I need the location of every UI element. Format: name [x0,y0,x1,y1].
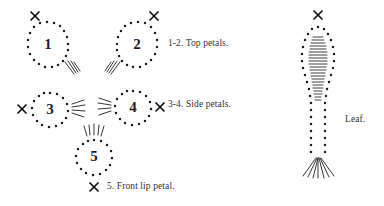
petal-2-group: 2 [105,12,158,74]
petal-4-number: 4 [129,99,137,115]
petal-5-cross-icon [90,183,98,191]
leaf-outline-dots [301,26,336,154]
petal-2-hatch-icon [105,61,120,74]
caption-top-petals: 1-2. Top petals. [168,38,228,48]
leaf-vein-hatching [309,37,327,100]
caption-front-lip-petal: 5. Front lip petal. [107,181,175,191]
petal-1-cross-icon [31,12,39,20]
petal-4-cross-icon [156,103,164,111]
petal-1-number: 1 [44,36,52,52]
petal-4-hatch-icon [98,98,111,115]
petal-5-hatch-icon [84,124,104,136]
petal-2-cross-icon [150,12,158,20]
leaf-cross-icon [314,11,322,19]
petal-3-number: 3 [46,101,54,117]
petal-1-group: 1 [27,12,80,74]
petal-4-group: 4 [98,90,164,127]
petal-2-number: 2 [133,36,141,52]
petal-3-hatch-icon [72,100,85,117]
petal-5-number: 5 [90,148,98,164]
petal-3-cross-icon [18,105,26,113]
leaf-stem-fan-icon [303,158,334,178]
petal-1-hatch-icon [65,61,80,74]
caption-leaf: Leaf. [345,114,365,124]
caption-side-petals: 3-4. Side petals. [168,99,231,109]
petal-3-group: 3 [18,92,85,129]
leaf-group [301,11,336,178]
petal-diagram: 1 [0,0,384,206]
